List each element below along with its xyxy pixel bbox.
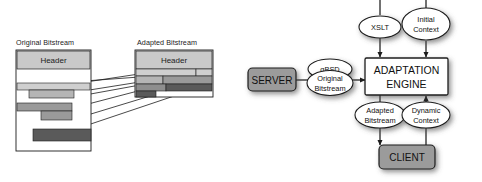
adapted-band [136,76,163,84]
original-band [17,103,72,111]
node-initial-context[interactable]: Initial Context [402,8,450,40]
figure-root: Original Bitstream Header Adapted Bitstr… [0,0,482,182]
server-label: SERVER [252,75,293,86]
original-bitstream-label-line2: Bitstream [314,84,345,93]
architecture-diagram: SERVER gBSD Original Bitstream XSLT [241,0,482,182]
node-adaptation-engine[interactable]: ADAPTATION ENGINE [365,58,448,95]
node-adapted-bitstream[interactable]: Adapted Bitstream [355,102,405,128]
adapted-band [136,84,166,91]
adapted-bitstream-label-line1: Adapted [366,106,394,115]
client-label: CLIENT [389,152,425,163]
xslt-label: XSLT [371,23,389,32]
original-bitstream-label-line1: Original [317,74,343,83]
adapted-bitstream-label-line2: Bitstream [364,116,395,125]
initial-context-label-line2: Context [413,25,438,34]
dynamic-context-label-line2: Context [413,116,438,125]
node-original-bitstream[interactable]: Original Bitstream [307,71,353,96]
original-band [33,129,91,141]
node-server[interactable]: SERVER [248,68,296,91]
initial-context-label-line1: Initial [417,15,435,24]
adapted-band [136,69,196,76]
original-band [41,111,72,120]
adapted-band [136,91,156,97]
original-bitstream-title: Original Bitstream [16,38,74,47]
original-header-label: Header [40,56,67,65]
node-dynamic-context[interactable]: Dynamic Context [402,102,450,128]
bitstream-diagram: Original Bitstream Header Adapted Bitstr… [0,0,241,182]
adapted-band [163,76,212,84]
dynamic-context-label-line1: Dynamic [412,106,441,115]
original-band [29,90,74,98]
adapted-band [166,84,212,91]
adaptation-engine-label-line1: ADAPTATION [374,64,440,76]
node-client[interactable]: CLIENT [379,145,435,169]
adapted-band [196,69,212,76]
panel-bitstream-adaptation: Original Bitstream Header Adapted Bitstr… [0,0,241,182]
adaptation-engine-label-line2: ENGINE [386,78,426,90]
adapted-bitstream-title: Adapted Bitstream [137,38,197,47]
original-band [17,83,90,90]
node-xslt[interactable]: XSLT [359,16,401,38]
panel-adaptation-architecture: SERVER gBSD Original Bitstream XSLT [241,0,482,182]
adapted-header-label: Header [161,56,188,65]
